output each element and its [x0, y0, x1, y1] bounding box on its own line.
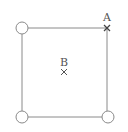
- point-a-label: A: [102, 11, 112, 24]
- square-diagram: A B: [0, 0, 128, 132]
- bottom-right-circle-node: [102, 111, 114, 123]
- point-b-label: B: [60, 56, 68, 69]
- point-b-cross-icon: [61, 69, 67, 75]
- top-left-circle-node: [16, 22, 28, 34]
- bottom-left-circle-node: [16, 111, 28, 123]
